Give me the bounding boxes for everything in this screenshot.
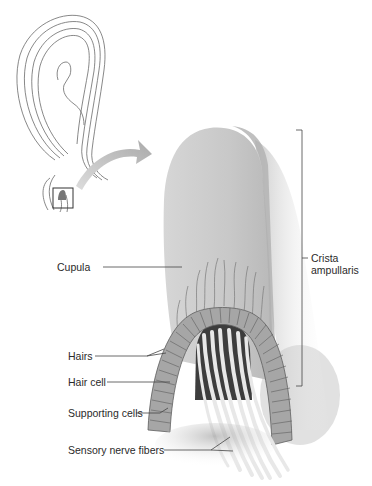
inset-crista-glyph bbox=[58, 190, 66, 200]
crista-ampullaris-diagram: Cupula Hairs Hair cell Supporting cells … bbox=[0, 0, 372, 486]
semicircular-canal-inset bbox=[17, 15, 108, 212]
label-hair-cell: Hair cell bbox=[68, 376, 106, 388]
label-supporting-cells: Supporting cells bbox=[68, 407, 143, 419]
diagram-artwork bbox=[0, 0, 372, 486]
label-crista-line1: Crista bbox=[311, 252, 372, 264]
label-hairs: Hairs bbox=[68, 350, 93, 362]
label-sensory-nerve-fibers: Sensory nerve fibers bbox=[68, 444, 164, 456]
label-crista-line2: ampullaris bbox=[311, 264, 372, 276]
label-crista-ampullaris: Crista ampullaris bbox=[311, 252, 372, 276]
label-cupula: Cupula bbox=[57, 261, 90, 273]
